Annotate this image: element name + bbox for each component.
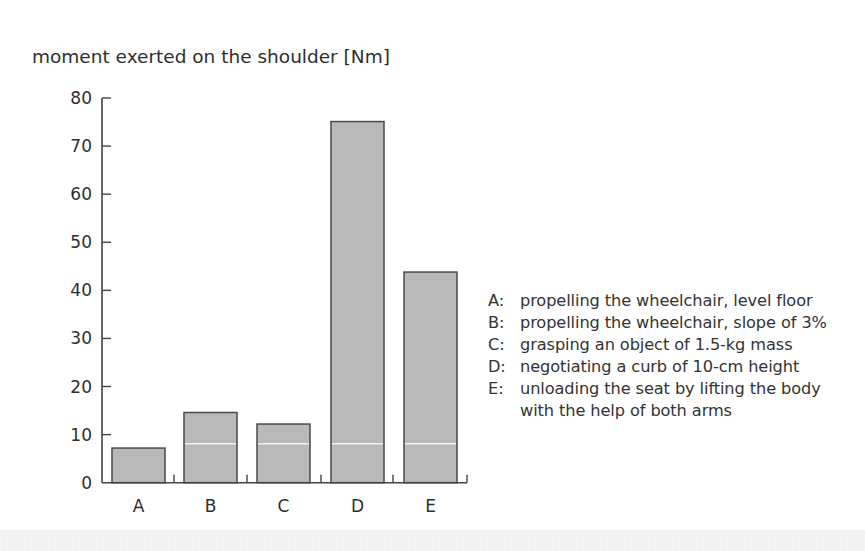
x-tick-label: C bbox=[278, 496, 290, 516]
bars bbox=[112, 122, 457, 483]
x-tick-label: D bbox=[351, 496, 364, 516]
bar-c bbox=[257, 424, 310, 483]
legend-key bbox=[488, 400, 520, 422]
legend-text: grasping an object of 1.5-kg mass bbox=[520, 334, 792, 356]
legend-item-e: with the help of both arms bbox=[488, 400, 827, 422]
x-tick-label: B bbox=[205, 496, 217, 516]
legend-item-d: D:negotiating a curb of 10-cm height bbox=[488, 356, 827, 378]
y-tick-label: 40 bbox=[70, 280, 92, 300]
bar-b bbox=[184, 412, 237, 482]
legend-key: A: bbox=[488, 290, 520, 312]
y-tick-label: 60 bbox=[70, 184, 92, 204]
y-tick-label: 10 bbox=[70, 425, 92, 445]
legend-text: with the help of both arms bbox=[520, 400, 732, 422]
y-tick-label: 50 bbox=[70, 232, 92, 252]
legend-item-c: C:grasping an object of 1.5-kg mass bbox=[488, 334, 827, 356]
legend-key: C: bbox=[488, 334, 520, 356]
x-tick-label: A bbox=[133, 496, 145, 516]
legend-key: D: bbox=[488, 356, 520, 378]
y-tick-label: 0 bbox=[81, 473, 92, 493]
chart-canvas: moment exerted on the shoulder [Nm] 0102… bbox=[0, 0, 865, 551]
x-tick-label: E bbox=[425, 496, 436, 516]
y-tick-label: 30 bbox=[70, 328, 92, 348]
bar-chart: moment exerted on the shoulder [Nm] 0102… bbox=[0, 0, 865, 551]
y-axis: 01020304050607080 bbox=[70, 88, 111, 493]
bar-d bbox=[331, 122, 384, 483]
bar-e bbox=[404, 272, 457, 483]
legend-key: E: bbox=[488, 378, 520, 400]
legend-key: B: bbox=[488, 312, 520, 334]
legend-text: unloading the seat by lifting the body bbox=[520, 378, 821, 400]
y-tick-label: 80 bbox=[70, 88, 92, 108]
bar-a bbox=[112, 448, 165, 483]
chart-title: moment exerted on the shoulder [Nm] bbox=[32, 46, 390, 67]
legend-text: propelling the wheelchair, slope of 3% bbox=[520, 312, 827, 334]
bottom-strip bbox=[0, 530, 865, 551]
legend-text: negotiating a curb of 10-cm height bbox=[520, 356, 799, 378]
y-tick-label: 20 bbox=[70, 377, 92, 397]
legend-item-e: E:unloading the seat by lifting the body bbox=[488, 378, 827, 400]
legend-text: propelling the wheelchair, level floor bbox=[520, 290, 813, 312]
legend-item-a: A:propelling the wheelchair, level floor bbox=[488, 290, 827, 312]
legend: A:propelling the wheelchair, level floor… bbox=[488, 290, 827, 422]
legend-item-b: B:propelling the wheelchair, slope of 3% bbox=[488, 312, 827, 334]
y-tick-label: 70 bbox=[70, 136, 92, 156]
